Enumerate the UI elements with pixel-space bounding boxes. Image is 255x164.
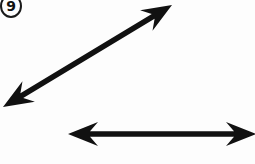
figure-background	[0, 0, 255, 164]
figure-drawing-canvas	[0, 0, 255, 164]
figure-container: 9	[0, 0, 255, 164]
